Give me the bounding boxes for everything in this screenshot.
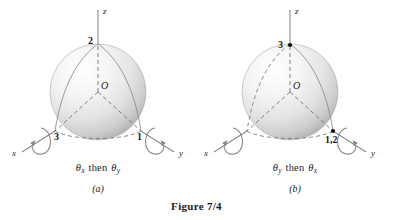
panel-b: z x y 3 1,2 O θy then θx (b) [197, 0, 393, 205]
x-rotation-arrow [224, 128, 242, 154]
rotation-caption-b: θy then θx [197, 162, 393, 175]
y-rotation-arrow [337, 128, 355, 154]
rotation-caption-a: θx then θy [0, 162, 196, 175]
z-axis-label: z [294, 6, 299, 16]
origin-label: O [293, 80, 300, 91]
sphere-diagram-b: z x y 3 1,2 O [197, 0, 393, 175]
y-rotation-arrow [145, 128, 163, 154]
y-axis-dot-marker [331, 129, 335, 133]
x-rotation-arrow [32, 128, 50, 154]
sphere-diagram-a: z x y 2 3 1 O [0, 0, 196, 175]
figure-caption: Figure 7/4 [0, 200, 393, 212]
origin-label: O [101, 80, 108, 91]
pole-dot-marker [288, 43, 292, 47]
theta-first-subscript: y [278, 166, 282, 175]
theta-second-subscript: x [314, 166, 318, 175]
figure-7-4: z x y 2 3 1 O θx then θy (a) [0, 0, 393, 220]
y-axis-label: y [178, 148, 183, 158]
x-axis-marker-label: 3 [54, 131, 59, 142]
theta-second-subscript: y [117, 166, 121, 175]
y-axis-label: y [370, 148, 375, 158]
panel-label-b: (b) [197, 183, 393, 194]
x-axis-label: x [203, 148, 208, 158]
rotation-connector: then [285, 162, 306, 173]
rotation-connector: then [88, 162, 109, 173]
x-axis-label: x [11, 148, 16, 158]
pole-marker-label: 3 [278, 39, 283, 50]
z-axis-label: z [102, 6, 107, 16]
pole-marker-label: 2 [88, 35, 93, 46]
panel-label-a: (a) [0, 183, 196, 194]
y-axis-marker-label: 1,2 [325, 134, 338, 145]
theta-first-subscript: x [81, 166, 85, 175]
panel-a: z x y 2 3 1 O θx then θy (a) [0, 0, 196, 205]
y-axis-marker-label: 1 [137, 131, 142, 142]
